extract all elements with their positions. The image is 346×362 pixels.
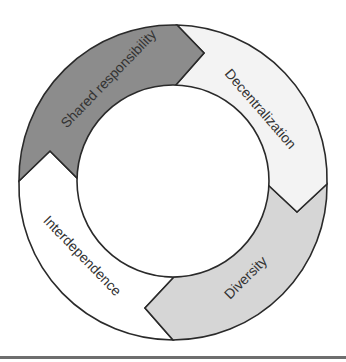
cycle-diagram: Shared responsibility Decentralization D… — [0, 0, 346, 362]
center-circle — [77, 85, 269, 277]
bottom-divider — [0, 356, 346, 359]
